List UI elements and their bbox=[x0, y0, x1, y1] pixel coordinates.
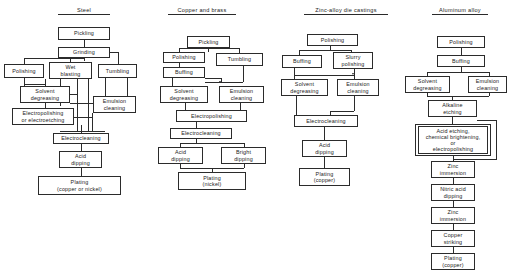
node-copper-pickling: Pickling bbox=[187, 36, 230, 48]
edge-steel-wetblast-v2 bbox=[77, 79, 78, 131]
edge-zinc-emulsion-bus bbox=[330, 111, 354, 112]
edge-steel-tumbling-v2 bbox=[127, 78, 128, 96]
edge-aluminum-bypass bbox=[496, 120, 497, 160]
arrow-copper-to-emulsion bbox=[219, 81, 221, 83]
edge-aluminum-polishing-buffing bbox=[461, 48, 462, 55]
node-aluminum-nitric-acid-dipping: Nitric acid dipping bbox=[431, 184, 475, 201]
node-steel-solvent-degreasing: Solvent degreasing bbox=[20, 86, 70, 103]
arrow-zinc-to-emulsion bbox=[352, 73, 354, 75]
node-zinc-acid-dipping: Acid dipping bbox=[302, 140, 347, 157]
edge-steel-to-tumbling bbox=[118, 52, 119, 64]
edge-aluminum-lower-bus bbox=[427, 96, 489, 97]
edge-steel-lower-bus bbox=[60, 131, 105, 132]
node-copper-electrocleaning: Electrocleaning bbox=[170, 128, 232, 139]
edge-steel-to-electrocleaning bbox=[81, 125, 82, 133]
edge-copper-buffing-right bbox=[205, 78, 221, 79]
column-title-steel: Steel bbox=[58, 7, 110, 15]
edge-steel-acid-to-plating bbox=[81, 168, 82, 176]
node-zinc-plating: Plating (copper) bbox=[299, 168, 350, 186]
edge-steel-emulsion-down bbox=[92, 113, 93, 131]
node-copper-tumbling: Tumbling bbox=[216, 53, 263, 66]
node-copper-solvent-degreasing: Solvent degreasing bbox=[160, 86, 208, 103]
edge-copper-acid-down bbox=[180, 164, 181, 168]
node-steel-polishing: Polishing bbox=[4, 64, 44, 78]
node-steel-grinding: Grinding bbox=[58, 47, 110, 58]
edge-steel-grinding-right-bus bbox=[110, 52, 118, 53]
edge-copper-bright-down bbox=[244, 164, 245, 168]
node-aluminum-polishing: Polishing bbox=[437, 36, 485, 48]
node-steel-emulsion-cleaning: Emulsion cleaning bbox=[93, 96, 136, 113]
edge-aluminum-buffing-down bbox=[461, 67, 462, 72]
edge-steel-solvent-to-emulsion bbox=[70, 103, 93, 104]
node-aluminum-plating: Plating (copper) bbox=[431, 253, 475, 270]
edge-aluminum-bypass-return bbox=[453, 159, 496, 160]
node-aluminum-buffing: Buffing bbox=[437, 55, 485, 67]
node-aluminum-acid-etching-options: Acid etching, chemical brightening, or e… bbox=[415, 124, 491, 156]
node-copper-plating: Plating (nickel) bbox=[178, 172, 246, 190]
edge-steel-tumbling-v1 bbox=[105, 78, 106, 96]
edge-copper-lower-bus bbox=[180, 143, 244, 144]
column-title-aluminum-alloy: Aluminum alloy bbox=[432, 7, 488, 15]
edge-aluminum-buffing-bus bbox=[427, 72, 489, 73]
edge-zinc-electroclean-acid bbox=[324, 127, 325, 140]
edge-steel-electropol-right bbox=[74, 117, 92, 118]
node-aluminum-acid-etching-options-text: Acid etching, chemical brightening, or e… bbox=[418, 126, 489, 155]
node-zinc-electrocleaning: Electrocleaning bbox=[294, 115, 358, 127]
edge-aluminum-solvent-down bbox=[427, 93, 428, 96]
edge-copper-electroclean-down bbox=[196, 139, 197, 143]
node-zinc-slurry-polishing: Slurry polishing bbox=[333, 52, 373, 69]
edge-steel-wetblast-v3 bbox=[88, 79, 89, 131]
node-zinc-polishing: Polishing bbox=[307, 34, 358, 46]
edge-steel-into-solvent bbox=[45, 79, 46, 86]
edge-copper-mid-bus bbox=[205, 82, 243, 83]
node-aluminum-emulsion-cleaning: Emulsion cleaning bbox=[468, 76, 507, 93]
node-copper-polishing: Polishing bbox=[163, 52, 205, 63]
node-aluminum-zinc-immersion-2: Zinc immersion bbox=[431, 207, 475, 224]
edge-steel-electro-to-acid bbox=[81, 144, 82, 151]
edge-aluminum-emulsion-down bbox=[489, 93, 490, 96]
edge-steel-polishing-bus bbox=[24, 84, 46, 85]
edge-copper-pickling-bus bbox=[179, 48, 239, 49]
edge-zinc-polishing-down bbox=[330, 46, 331, 50]
column-title-copper-brass: Copper and brass bbox=[168, 7, 236, 15]
node-steel-pickling: Pickling bbox=[58, 27, 110, 40]
edge-copper-solvent-electropol bbox=[185, 103, 186, 110]
column-title-zinc-alloy: Zinc-alloy die castings bbox=[304, 7, 388, 15]
node-steel-wet-blasting: Wet blasting bbox=[49, 62, 92, 79]
node-aluminum-alkaline-etching: Alkaline etching bbox=[428, 100, 477, 117]
edge-steel-grinding-down bbox=[84, 58, 85, 61]
node-steel-electropolishing-electroetching: Electropolishing or electroetching bbox=[12, 108, 74, 125]
edge-copper-buffing-solvent bbox=[172, 78, 173, 86]
node-copper-bright-dipping: Bright dipping bbox=[221, 147, 266, 164]
edge-copper-emulsion-electropol bbox=[240, 103, 241, 110]
edge-copper-tumbling-down bbox=[243, 66, 244, 82]
node-copper-emulsion-cleaning: Emulsion cleaning bbox=[219, 86, 264, 103]
edge-zinc-mid-bus bbox=[294, 75, 354, 76]
edge-steel-pickling-grinding bbox=[84, 40, 85, 47]
node-zinc-buffing: Buffing bbox=[282, 55, 322, 68]
node-aluminum-solvent-degreasing: Solvent degreasing bbox=[405, 76, 450, 93]
node-zinc-solvent-degreasing: Solvent degreasing bbox=[281, 79, 328, 96]
node-steel-electrocleaning: Electrocleaning bbox=[53, 133, 109, 144]
node-aluminum-copper-striking: Copper striking bbox=[431, 230, 475, 247]
node-zinc-emulsion-cleaning: Emulsion cleaning bbox=[337, 79, 379, 96]
edge-copper-pickling-down bbox=[208, 48, 209, 52]
node-copper-acid-dipping: Acid dipping bbox=[158, 147, 203, 164]
node-copper-electropolishing: Electropolishing bbox=[176, 110, 247, 122]
node-steel-acid-dipping: Acid dipping bbox=[59, 151, 102, 168]
edge-zinc-solvent-electroclean bbox=[296, 96, 297, 115]
process-flow-diagram: Steel Pickling Grinding Polishing Wet bl… bbox=[0, 0, 509, 276]
edge-aluminum-alkaline-right bbox=[477, 120, 496, 121]
node-steel-plating: Plating (copper or nickel) bbox=[38, 176, 121, 195]
edge-zinc-polishing-bus bbox=[299, 50, 351, 51]
edge-zinc-acid-plating bbox=[324, 157, 325, 168]
node-aluminum-zinc-immersion-1: Zinc immersion bbox=[431, 161, 475, 178]
node-copper-buffing: Buffing bbox=[163, 67, 205, 78]
edge-zinc-emulsion-electroclean bbox=[354, 96, 355, 111]
edge-aluminum-alkaline-to-acid bbox=[452, 117, 453, 124]
edge-steel-grinding-left-bus bbox=[24, 58, 84, 59]
node-steel-tumbling: Tumbling bbox=[98, 64, 137, 78]
edge-zinc-buffing-down bbox=[294, 68, 295, 75]
edge-steel-solvent-right bbox=[70, 94, 77, 95]
